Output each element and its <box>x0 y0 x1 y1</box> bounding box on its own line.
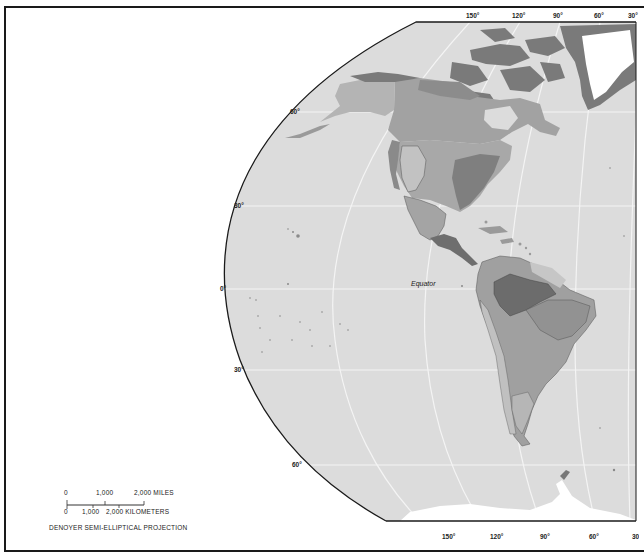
scale-km-2000: 2,000 KILOMETERS <box>106 508 170 515</box>
lon-label-top: 150° <box>466 12 480 19</box>
lon-label-bottom: 90° <box>540 533 550 540</box>
lon-label-bottom: 150° <box>442 533 456 540</box>
lon-label-bottom: 120° <box>490 533 504 540</box>
scale-miles-1000: 1,000 <box>96 489 113 496</box>
lat-label: 30° <box>234 366 244 373</box>
scale-bar: 0 1,000 2,000 MILES 0 1,000 2,000 KILOME… <box>49 489 187 531</box>
lat-label: 0° <box>220 285 227 292</box>
lon-label-top: 30° <box>628 12 638 19</box>
scale-miles-0: 0 <box>64 489 68 496</box>
projection-label: DENOYER SEMI-ELLIPTICAL PROJECTION <box>49 524 187 531</box>
lon-label-top: 60° <box>594 12 604 19</box>
lon-label-top: 120° <box>512 12 526 19</box>
scale-km-0: 0 <box>64 508 68 515</box>
scale-km-1000: 1,000 <box>82 508 99 515</box>
lat-label: 60° <box>290 108 300 115</box>
scale-miles-2000: 2,000 MILES <box>134 489 174 496</box>
lat-label: 60° <box>292 461 302 468</box>
land-south-georgia <box>613 469 615 471</box>
lon-label-bottom: 60° <box>589 533 599 540</box>
lon-label-bottom: 30° <box>632 533 639 540</box>
equator-label: Equator <box>411 280 436 288</box>
lon-label-top: 90° <box>553 12 563 19</box>
lat-label: 30° <box>234 202 244 209</box>
